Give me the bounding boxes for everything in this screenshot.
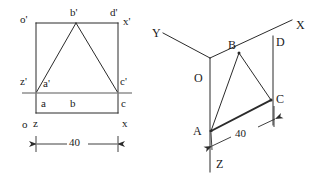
label-c-prime: c' bbox=[120, 76, 127, 87]
orthographic-geometry bbox=[36, 23, 118, 113]
label-c: c bbox=[121, 98, 126, 109]
label-x-prime: x' bbox=[123, 16, 130, 27]
label-x-axis: X bbox=[296, 19, 305, 31]
isometric-dimension-value: 40 bbox=[234, 128, 247, 139]
label-z-prime: z' bbox=[20, 76, 27, 87]
label-z: z bbox=[33, 118, 38, 129]
iso-dim-arrow-right bbox=[258, 119, 275, 127]
vertex-dot-b bbox=[238, 52, 241, 55]
label-a-prime: a' bbox=[43, 78, 50, 89]
drawing-canvas: o' b' d' x' z' a' c' a b c o z x 40 Y X … bbox=[0, 0, 321, 177]
label-origin-o: O bbox=[194, 72, 203, 84]
vertex-dot-a bbox=[210, 130, 213, 133]
label-a: a bbox=[41, 98, 46, 109]
label-vertex-d: D bbox=[276, 36, 285, 48]
orthographic-dimension-value: 40 bbox=[68, 137, 81, 148]
elevation-triangle-left-side bbox=[36, 23, 76, 93]
label-vertex-c: C bbox=[276, 93, 284, 105]
iso-dim-arrow-left bbox=[212, 137, 231, 146]
label-d-prime: d' bbox=[110, 7, 117, 18]
lamina-edge-b-c bbox=[239, 53, 271, 100]
iso-dim-extension-left bbox=[211, 133, 212, 150]
vertex-dot-c bbox=[270, 99, 273, 102]
y-axis-line bbox=[163, 33, 210, 58]
label-x: x bbox=[122, 118, 128, 129]
label-o: o bbox=[22, 119, 28, 130]
label-vertex-a: A bbox=[193, 125, 202, 137]
label-o-prime: o' bbox=[20, 14, 27, 25]
label-y-axis: Y bbox=[152, 27, 161, 39]
label-b: b bbox=[70, 98, 76, 109]
elevation-triangle-right-side bbox=[76, 23, 118, 93]
label-b-prime: b' bbox=[70, 7, 77, 18]
label-vertex-b: B bbox=[228, 39, 236, 51]
label-z-axis: Z bbox=[216, 158, 223, 170]
